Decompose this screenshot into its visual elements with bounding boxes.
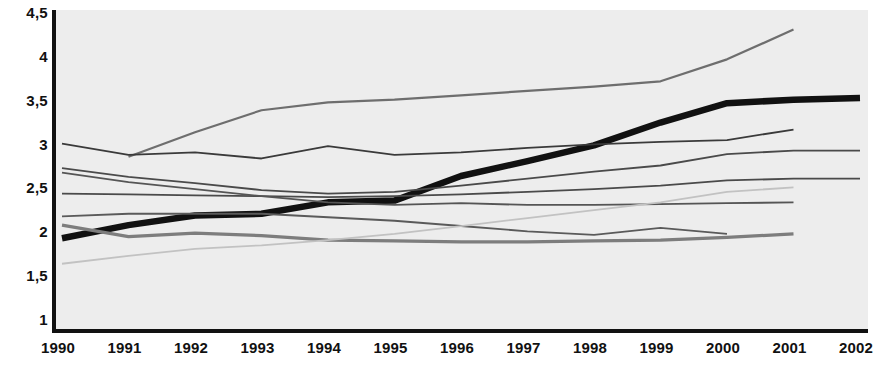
x-axis-tick-label: 1994 [307,339,341,356]
y-axis-labels: 11,522,533,544,5 [0,0,48,379]
y-axis-tick-label: 1,5 [4,267,48,284]
y-axis-tick-label: 2,5 [4,179,48,196]
series-line [62,214,727,235]
line-chart-svg [56,10,872,333]
x-axis-tick-label: 1995 [373,339,407,356]
x-axis-tick-label: 1996 [440,339,474,356]
x-axis-labels: 1990199119921993199419951996199719981999… [52,337,868,371]
y-axis-tick-label: 3,5 [4,91,48,108]
x-axis-tick-label: 1999 [639,339,673,356]
x-axis-tick-label: 1998 [573,339,607,356]
x-axis-tick-label: 1991 [107,339,141,356]
x-axis-tick-label: 2001 [772,339,806,356]
y-axis-tick-label: 1 [4,311,48,328]
x-axis-tick-label: 2000 [706,339,740,356]
y-axis-tick-label: 2 [4,223,48,240]
y-axis-tick-label: 3 [4,135,48,152]
series-line [62,130,794,159]
x-axis-tick-label: 2002 [839,339,873,356]
y-axis-tick-label: 4,5 [4,4,48,21]
x-axis-tick-label: 1990 [41,339,75,356]
chart-page: 11,522,533,544,5 19901991199219931994199… [0,0,878,379]
y-axis-tick-label: 4 [4,47,48,64]
series-line [62,98,860,238]
series-line [62,225,794,242]
x-axis-tick-label: 1997 [506,339,540,356]
x-axis-tick-label: 1993 [240,339,274,356]
plot-area [52,10,868,333]
series-line [62,187,794,263]
x-axis-tick-label: 1992 [174,339,208,356]
series-line [129,30,794,157]
